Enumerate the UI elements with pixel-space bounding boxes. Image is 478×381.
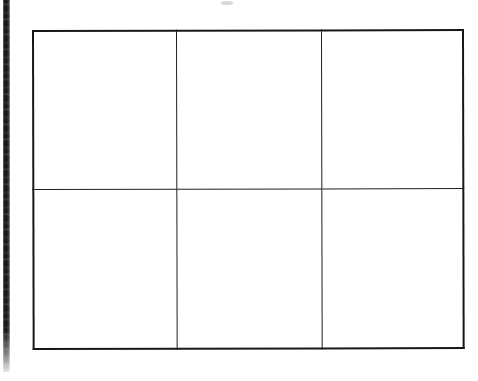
empty-grid-table bbox=[32, 29, 465, 350]
table-cell[interactable] bbox=[176, 30, 321, 189]
table-row bbox=[33, 189, 463, 349]
scan-edge-shadow-artifact bbox=[3, 0, 10, 372]
scan-edge-shadow-fade bbox=[3, 330, 10, 376]
table-cell[interactable] bbox=[321, 189, 463, 349]
table-cell[interactable] bbox=[33, 189, 176, 349]
table-cell[interactable] bbox=[33, 31, 176, 190]
table-row bbox=[33, 30, 463, 189]
scanned-page bbox=[0, 0, 478, 381]
scan-speck-artifact bbox=[221, 1, 233, 5]
table-cell[interactable] bbox=[176, 189, 321, 349]
table-cell[interactable] bbox=[321, 30, 463, 189]
